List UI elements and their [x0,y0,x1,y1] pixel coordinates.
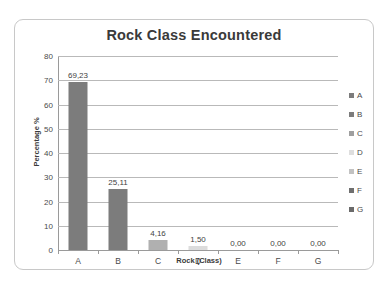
legend-swatch-icon [349,207,354,212]
bar-slot: 0,00 [298,56,338,250]
x-tick-label-F: F [275,256,280,266]
legend-label: G [357,206,363,214]
chart-legend: ABCDEFG [349,86,379,219]
legend-item-D[interactable]: D [349,143,379,162]
legend-item-G[interactable]: G [349,200,379,219]
bar-slot: 25,11 [98,56,138,250]
bar-value-label-G: 0,00 [310,239,326,248]
legend-swatch-icon [349,150,354,155]
x-tick-label-B: B [115,256,121,266]
bar-value-label-D: 1,50 [190,235,206,244]
bar-D[interactable] [189,246,208,250]
bar-value-label-A: 69,23 [68,71,88,80]
legend-label: C [357,130,363,138]
bar-C[interactable] [149,240,168,250]
legend-swatch-icon [349,188,354,193]
plot-area: 01020304050607080 69,2325,114,161,500,00… [58,56,338,250]
y-tick-label-10: 10 [44,221,53,230]
bar-A[interactable] [69,82,88,250]
y-tick-label-20: 20 [44,197,53,206]
x-tick [58,250,59,254]
legend-swatch-icon [349,169,354,174]
x-tick-label-A: A [75,256,81,266]
bar-slot: 1,50 [178,56,218,250]
gridline-0: 0 [58,250,338,251]
bar-value-label-E: 0,00 [230,239,246,248]
legend-label: F [357,187,362,195]
legend-label: E [357,168,362,176]
legend-swatch-icon [349,93,354,98]
legend-label: A [357,92,362,100]
x-tick [338,250,339,254]
chart-title: Rock Class Encountered [15,27,373,43]
legend-item-B[interactable]: B [349,105,379,124]
bar-B[interactable] [109,189,128,250]
legend-swatch-icon [349,112,354,117]
y-tick-label-80: 80 [44,52,53,61]
legend-label: B [357,111,362,119]
x-tick [218,250,219,254]
bar-slot: 0,00 [258,56,298,250]
legend-swatch-icon [349,131,354,136]
bar-value-label-F: 0,00 [270,239,286,248]
bar-slot: 69,23 [58,56,98,250]
y-axis-title: Percentage % [32,117,41,166]
y-tick-label-40: 40 [44,149,53,158]
x-tick [298,250,299,254]
y-tick-label-0: 0 [49,246,53,255]
bar-slot: 4,16 [138,56,178,250]
x-tick [258,250,259,254]
y-tick-label-30: 30 [44,173,53,182]
legend-item-E[interactable]: E [349,162,379,181]
bar-value-label-C: 4,16 [150,229,166,238]
x-axis-title: Rock (Class) [176,256,221,265]
y-tick-label-70: 70 [44,76,53,85]
legend-item-A[interactable]: A [349,86,379,105]
bar-slot: 0,00 [218,56,258,250]
chart-frame: Rock Class Encountered Percentage % 0102… [14,19,374,270]
legend-label: D [357,149,363,157]
x-tick [178,250,179,254]
legend-item-F[interactable]: F [349,181,379,200]
y-tick-label-60: 60 [44,100,53,109]
x-tick [98,250,99,254]
x-tick [138,250,139,254]
x-tick-label-E: E [235,256,241,266]
x-tick-label-C: C [155,256,161,266]
bar-value-label-B: 25,11 [108,178,127,187]
x-tick-label-G: G [315,256,322,266]
legend-item-C[interactable]: C [349,124,379,143]
y-tick-label-50: 50 [44,124,53,133]
